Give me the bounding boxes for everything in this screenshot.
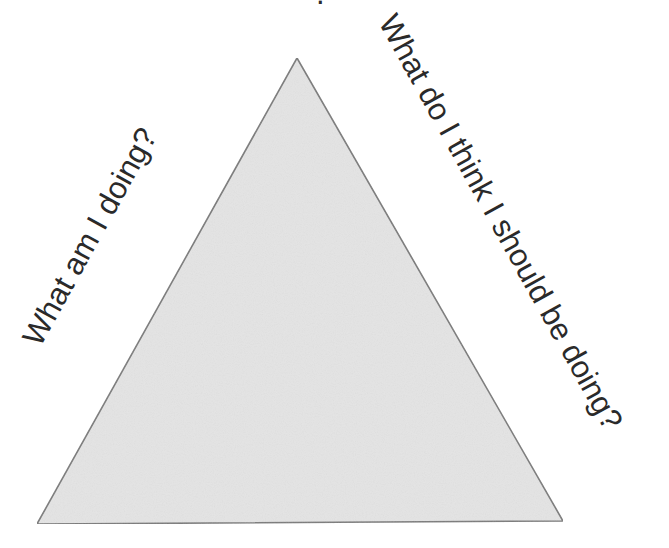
triangle-diagram: . What am I doing? What do I think I sho… <box>0 0 669 548</box>
top-partial-glyph: . <box>316 0 325 11</box>
triangle-shape <box>37 58 563 524</box>
left-side-label: What am I doing? <box>16 122 164 351</box>
